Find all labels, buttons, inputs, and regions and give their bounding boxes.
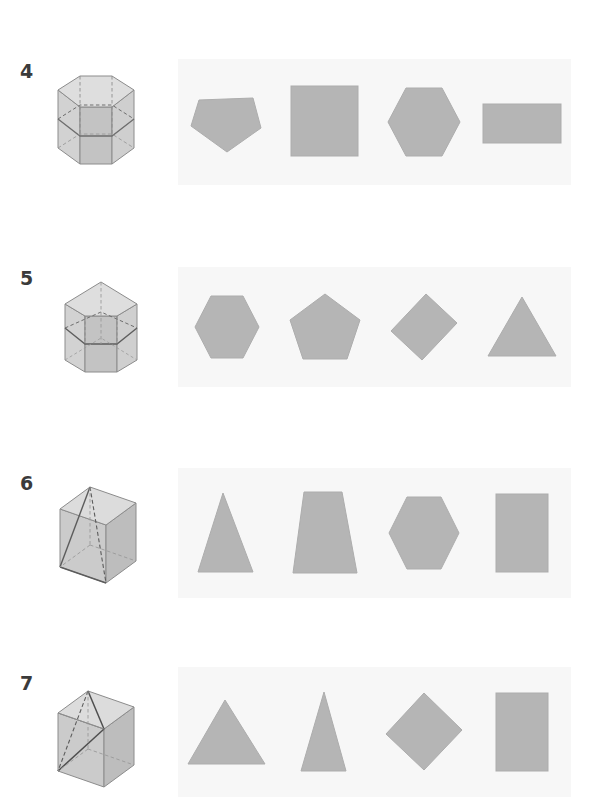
option-6-b-trapezoid[interactable]	[276, 468, 374, 598]
question-number-5: 5	[20, 269, 33, 288]
option-6-d-rectangle[interactable]	[473, 468, 571, 598]
option-6-c-hexagon[interactable]	[375, 468, 473, 598]
option-6-a-triangle[interactable]	[178, 468, 276, 598]
question-row-4: 4	[0, 55, 602, 190]
option-7-d-rectangle[interactable]	[473, 667, 571, 797]
option-4-d-rectangle[interactable]	[473, 59, 571, 185]
question-number-7: 7	[20, 674, 33, 693]
question-row-5: 5	[0, 262, 602, 397]
options-panel-4	[178, 59, 571, 185]
question-number-4: 4	[20, 62, 33, 81]
option-7-c-diamond[interactable]	[375, 667, 473, 797]
option-5-d-triangle[interactable]	[473, 267, 571, 387]
question-number-6: 6	[20, 474, 33, 493]
worksheet: 4	[0, 0, 602, 801]
option-5-c-diamond[interactable]	[375, 267, 473, 387]
solid-figure-cube-triangular-cut	[48, 681, 148, 793]
solid-figure-hexagonal-prism	[50, 60, 145, 180]
option-7-b-triangle-narrow[interactable]	[276, 667, 374, 797]
options-panel-6	[178, 468, 571, 598]
solid-figure-cube-diagonal-cut	[50, 479, 150, 589]
options-panel-7	[178, 667, 571, 797]
options-panel-5	[178, 267, 571, 387]
option-4-a-pentagon[interactable]	[178, 59, 276, 185]
question-row-6: 6	[0, 465, 602, 605]
question-row-7: 7	[0, 665, 602, 801]
option-5-a-hexagon[interactable]	[178, 267, 276, 387]
option-4-c-hexagon[interactable]	[375, 59, 473, 185]
option-7-a-triangle-wide[interactable]	[178, 667, 276, 797]
option-4-b-square[interactable]	[276, 59, 374, 185]
solid-figure-pentagonal-prism	[55, 272, 147, 387]
option-5-b-pentagon[interactable]	[276, 267, 374, 387]
